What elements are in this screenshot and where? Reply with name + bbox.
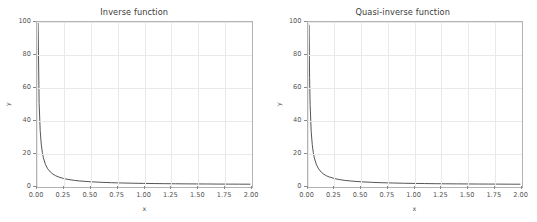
y-tick-mark [304, 54, 307, 55]
y-tick-label: 20 [279, 149, 302, 157]
x-tick-mark [144, 186, 145, 189]
y-tick-mark [33, 153, 36, 154]
chart-title: Inverse function [0, 7, 269, 17]
x-tick-label: 1.50 [460, 191, 475, 199]
x-tick-mark [414, 186, 415, 189]
x-tick-label: 0.75 [109, 191, 124, 199]
gridline-vertical [334, 22, 335, 187]
gridline-vertical [225, 22, 226, 187]
gridline-vertical [388, 22, 389, 187]
y-tick-mark [33, 21, 36, 22]
x-tick-mark [90, 186, 91, 189]
gridline-horizontal [308, 55, 522, 56]
x-tick-mark [494, 186, 495, 189]
x-tick-mark [467, 186, 468, 189]
y-tick-label: 60 [8, 83, 31, 91]
x-tick-label: 0.25 [326, 191, 341, 199]
y-tick-label: 80 [8, 50, 31, 58]
gridline-vertical [118, 22, 119, 187]
y-tick-label: 0 [8, 182, 31, 190]
gridline-vertical [441, 22, 442, 187]
x-tick-mark [197, 186, 198, 189]
gridline-vertical [252, 22, 253, 187]
x-tick-mark [63, 186, 64, 189]
plot-area [307, 21, 523, 188]
x-tick-mark [360, 186, 361, 189]
x-tick-label: 0.75 [379, 191, 394, 199]
x-tick-label: 0.50 [82, 191, 97, 199]
x-axis-label: x [36, 205, 253, 213]
gridline-horizontal [37, 55, 252, 56]
gridline-horizontal [308, 22, 522, 23]
x-tick-mark [521, 186, 522, 189]
x-tick-mark [36, 186, 37, 189]
gridline-horizontal [308, 88, 522, 89]
y-tick-label: 100 [279, 17, 302, 25]
gridline-horizontal [37, 154, 252, 155]
y-tick-label: 80 [279, 50, 302, 58]
y-tick-label: 20 [8, 149, 31, 157]
x-tick-label: 1.25 [163, 191, 178, 199]
y-tick-mark [304, 87, 307, 88]
y-tick-label: 40 [8, 116, 31, 124]
x-tick-mark [170, 186, 171, 189]
x-tick-label: 0.00 [29, 191, 44, 199]
gridline-vertical [91, 22, 92, 187]
y-tick-mark [33, 120, 36, 121]
gridline-vertical [64, 22, 65, 187]
x-tick-mark [440, 186, 441, 189]
y-tick-mark [33, 186, 36, 187]
chart-title: Quasi-inverse function [269, 7, 537, 17]
gridline-vertical [171, 22, 172, 187]
y-axis-label: y [274, 102, 282, 106]
x-tick-label: 1.50 [190, 191, 205, 199]
x-tick-label: 0.50 [353, 191, 368, 199]
gridline-vertical [198, 22, 199, 187]
x-tick-label: 0.00 [299, 191, 314, 199]
x-tick-label: 2.00 [244, 191, 259, 199]
chart-panel-quasi-inverse: Quasi-inverse function 0.000.250.500.751… [269, 0, 537, 222]
x-tick-label: 0.25 [56, 191, 71, 199]
x-tick-label: 1.75 [217, 191, 232, 199]
y-tick-mark [304, 120, 307, 121]
gridline-horizontal [308, 121, 522, 122]
x-tick-mark [251, 186, 252, 189]
gridline-vertical [495, 22, 496, 187]
y-tick-mark [33, 87, 36, 88]
gridline-horizontal [37, 88, 252, 89]
gridline-horizontal [37, 121, 252, 122]
figure-canvas: Inverse function 0.000.250.500.751.001.2… [0, 0, 537, 222]
y-tick-label: 100 [8, 17, 31, 25]
y-tick-mark [304, 21, 307, 22]
x-axis-label: x [307, 205, 523, 213]
x-tick-mark [307, 186, 308, 189]
gridline-vertical [145, 22, 146, 187]
gridline-horizontal [37, 187, 252, 188]
y-tick-label: 0 [279, 182, 302, 190]
gridline-vertical [415, 22, 416, 187]
gridline-vertical [468, 22, 469, 187]
x-tick-label: 1.00 [406, 191, 421, 199]
gridline-vertical [37, 22, 38, 187]
x-tick-mark [224, 186, 225, 189]
y-axis-label: y [4, 102, 12, 106]
x-tick-label: 1.75 [486, 191, 501, 199]
y-tick-mark [304, 153, 307, 154]
y-tick-label: 40 [279, 116, 302, 124]
chart-panel-inverse: Inverse function 0.000.250.500.751.001.2… [0, 0, 269, 222]
x-tick-label: 1.25 [433, 191, 448, 199]
y-tick-label: 60 [279, 83, 302, 91]
gridline-horizontal [37, 22, 252, 23]
gridline-vertical [308, 22, 309, 187]
y-tick-mark [33, 54, 36, 55]
gridline-horizontal [308, 154, 522, 155]
x-tick-label: 1.00 [136, 191, 151, 199]
plot-area [36, 21, 253, 188]
x-tick-mark [387, 186, 388, 189]
x-tick-label: 2.00 [513, 191, 528, 199]
x-tick-mark [333, 186, 334, 189]
y-tick-mark [304, 186, 307, 187]
gridline-vertical [361, 22, 362, 187]
gridline-vertical [522, 22, 523, 187]
x-tick-mark [117, 186, 118, 189]
